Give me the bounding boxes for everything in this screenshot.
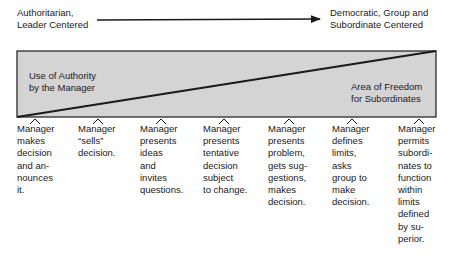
behavior-text: nounces	[17, 172, 55, 184]
behavior-text: nates to	[398, 160, 436, 172]
behavior-text: it.	[17, 184, 55, 196]
behavior-column-7: Manager permits subordi- nates to functi…	[398, 123, 436, 245]
behavior-text: group to	[332, 172, 370, 184]
use-of-authority-line1: Use of Authority	[29, 70, 96, 82]
behavior-text: to change.	[203, 184, 247, 196]
continuum-arrow	[97, 19, 320, 20]
behavior-text: limits,	[332, 147, 370, 159]
behavior-text: questions.	[140, 184, 183, 196]
area-of-freedom-label: Area of Freedom for Subordinates	[351, 81, 422, 104]
behavior-column-2: Manager “sells” decision.	[78, 123, 116, 160]
behavior-text: presents	[203, 135, 247, 147]
behavior-text: subject	[203, 172, 247, 184]
behavior-text: presents	[268, 135, 307, 147]
behavior-text: and an-	[17, 160, 55, 172]
right-end-label-line1: Democratic, Group and	[330, 7, 428, 19]
behavior-text: subordi-	[398, 147, 436, 159]
behavior-text: decision	[17, 147, 55, 159]
area-of-freedom-line2: for Subordinates	[351, 93, 422, 105]
behavior-text: perior.	[398, 233, 436, 245]
behavior-column-3: Manager presents ideas and invites quest…	[140, 123, 183, 196]
behavior-text: within	[398, 184, 436, 196]
area-of-freedom-line1: Area of Freedom	[351, 81, 422, 93]
behavior-text: decision.	[332, 196, 370, 208]
behavior-text: presents	[140, 135, 183, 147]
behavior-text: makes	[268, 184, 307, 196]
behavior-text: make	[332, 184, 370, 196]
behavior-text: Manager	[17, 123, 55, 135]
use-of-authority-line2: by the Manager	[29, 82, 96, 94]
behavior-text: decision.	[268, 196, 307, 208]
behavior-text: asks	[332, 160, 370, 172]
left-end-label: Authoritarian, Leader Centered	[17, 7, 88, 30]
behavior-text: tentative	[203, 147, 247, 159]
behavior-text: ideas	[140, 147, 183, 159]
behavior-text: problem,	[268, 147, 307, 159]
behavior-text: “sells”	[78, 135, 116, 147]
behavior-text: Manager	[78, 123, 116, 135]
behavior-text: Manager	[140, 123, 183, 135]
behavior-text: gestions,	[268, 172, 307, 184]
behavior-column-1: Manager makes decision and an- nounces i…	[17, 123, 55, 196]
behavior-text: limits	[398, 196, 436, 208]
behavior-text: defines	[332, 135, 370, 147]
behavior-text: permits	[398, 135, 436, 147]
behavior-text: decision.	[78, 147, 116, 159]
behavior-column-6: Manager defines limits, asks group to ma…	[332, 123, 370, 208]
behavior-text: function	[398, 172, 436, 184]
behavior-text: makes	[17, 135, 55, 147]
behavior-text: Manager	[332, 123, 370, 135]
behavior-text: defined	[398, 208, 436, 220]
behavior-text: decision	[203, 160, 247, 172]
behavior-column-5: Manager presents problem, gets sug- gest…	[268, 123, 307, 208]
right-end-label: Democratic, Group and Subordinate Center…	[330, 7, 428, 30]
right-end-label-line2: Subordinate Centered	[330, 19, 428, 31]
behavior-text: Manager	[203, 123, 247, 135]
left-end-label-line1: Authoritarian,	[17, 7, 88, 19]
behavior-text: and	[140, 160, 183, 172]
behavior-text: Manager	[268, 123, 307, 135]
behavior-text: invites	[140, 172, 183, 184]
behavior-text: Manager	[398, 123, 436, 135]
left-end-label-line2: Leader Centered	[17, 19, 88, 31]
behavior-text: by su-	[398, 221, 436, 233]
use-of-authority-label: Use of Authority by the Manager	[29, 70, 96, 93]
behavior-column-4: Manager presents tentative decision subj…	[203, 123, 247, 196]
behavior-text: gets sug-	[268, 160, 307, 172]
